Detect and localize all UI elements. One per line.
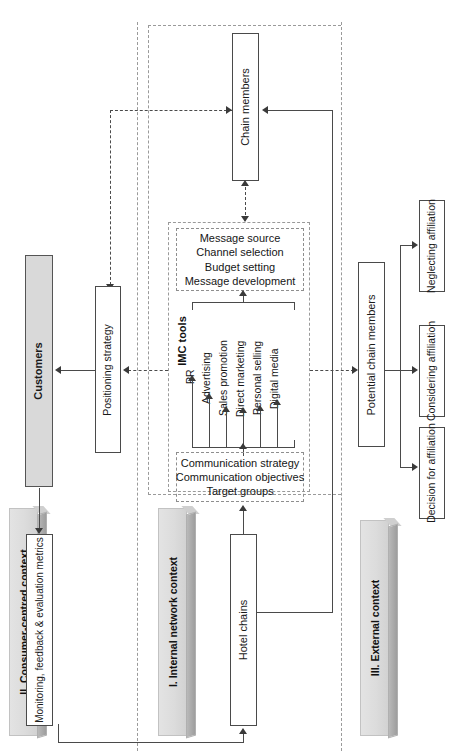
node-decision-for-affiliation-label: Decision for affiliation — [426, 423, 437, 523]
line-hotelchains-to-chainmembers-v — [332, 110, 333, 613]
arrowhead-tool-personal-selling — [256, 405, 264, 411]
line-potential-fanout — [400, 245, 401, 467]
message-line-3: Budget setting — [185, 260, 296, 274]
diagram-canvas: II. Consumer-centred context I. Internal… — [0, 0, 455, 751]
context-slab-internal: I. Internal network context — [158, 508, 187, 736]
panel-message: Message source Channel selection Budget … — [176, 228, 304, 291]
line-hotelchains-to-strategy — [243, 510, 244, 534]
arrowhead-considering — [412, 366, 418, 374]
line-monitoring-to-hotelchains-h — [58, 742, 243, 743]
node-considering-affiliation-label: Considering affiliation — [426, 321, 437, 421]
node-positioning-strategy[interactable]: Positioning strategy — [95, 286, 121, 453]
line-potential-stem — [385, 370, 401, 371]
context-divider-right — [341, 22, 342, 751]
arrowhead-chain-members-right — [262, 106, 268, 114]
arrowhead-chainmembers-bottom — [241, 180, 249, 186]
line-customers-to-monitoring — [39, 488, 40, 530]
line-hotelchains-riser — [252, 612, 333, 613]
node-neglecting-affiliation-label: Neglecting affiliation — [426, 199, 437, 293]
line-positioning-to-customers — [60, 370, 95, 371]
imc-tool-label-sales-promotion: Sales promotion — [217, 340, 229, 416]
arrowhead-tool-sales-promotion — [222, 406, 230, 412]
node-chain-members-label: Chain members — [240, 68, 252, 146]
context-label-external: III. External context — [369, 580, 381, 676]
arrowhead-to-messagepanel — [239, 290, 247, 296]
node-potential-chain-members-label: Potential chain members — [366, 294, 378, 415]
node-decision-for-affiliation[interactable]: Decision for affiliation — [419, 427, 445, 519]
context-divider-left — [137, 22, 138, 751]
imc-tool-label-direct-marketing: Direct marketing — [234, 341, 246, 417]
imc-tool-label-personal-selling: Personal selling — [251, 341, 263, 415]
arrowhead-neglecting — [412, 241, 418, 249]
node-positioning-strategy-label: Positioning strategy — [102, 324, 113, 416]
node-hotel-chains[interactable]: Hotel chains — [230, 534, 257, 726]
arrowhead-positioning-right — [123, 366, 129, 374]
link-chainmembers-messagepanel — [245, 182, 246, 220]
arrowhead-tool-advertising — [205, 393, 213, 399]
arrowhead-tool-pr — [188, 375, 196, 381]
node-customers-label: Customers — [33, 342, 45, 399]
link-imc-to-positioning — [128, 370, 168, 371]
node-considering-affiliation[interactable]: Considering affiliation — [419, 325, 445, 417]
node-hotel-chains-label: Hotel chains — [238, 600, 250, 661]
feedback-line-down-to-positioning — [110, 110, 111, 285]
arrowhead-decision — [412, 463, 418, 471]
slab-side — [186, 511, 196, 738]
strategy-line-1: Communication strategy — [176, 456, 304, 470]
strategy-line-3: Target groups — [176, 484, 304, 498]
message-line-1: Message source — [185, 231, 296, 245]
node-customers[interactable]: Customers — [25, 255, 53, 487]
node-chain-members[interactable]: Chain members — [232, 33, 259, 181]
arrowhead-potential-left — [352, 366, 358, 374]
arrowhead-hotelchains-bottom — [239, 728, 247, 734]
message-line-2: Channel selection — [185, 245, 296, 259]
node-monitoring-label: Monitoring, feedback & evaluation metric… — [34, 537, 45, 723]
node-potential-chain-members[interactable]: Potential chain members — [358, 262, 385, 447]
arrowhead-tool-digital-media — [273, 399, 281, 405]
context-label-internal: I. Internal network context — [167, 557, 179, 687]
link-imc-to-potential — [310, 370, 354, 371]
context-slab-external: III. External context — [360, 520, 389, 736]
panel-strategy: Communication strategy Communication obj… — [176, 452, 304, 502]
strategy-line-2: Communication objectives — [176, 470, 304, 484]
line-hotelchains-to-chainmembers-h — [265, 110, 333, 111]
arrowhead-strategy-to-bracket — [239, 443, 247, 449]
message-line-4: Message development — [185, 274, 296, 288]
node-neglecting-affiliation[interactable]: Neglecting affiliation — [419, 200, 445, 292]
feedback-line-chain-to-positioning — [110, 110, 232, 111]
imc-tools-upper-bracket — [192, 302, 295, 310]
arrowhead-strategy-bottom — [239, 505, 247, 511]
line-tool-pr — [192, 380, 193, 447]
arrowhead-customers-right — [55, 366, 61, 374]
node-monitoring[interactable]: Monitoring, feedback & evaluation metric… — [26, 534, 53, 726]
imc-tools-label: IMC tools — [176, 311, 188, 371]
line-monitoring-down — [58, 724, 59, 743]
line-into-hotelchains-bottom — [243, 733, 244, 743]
arrowhead-tool-direct-marketing — [239, 407, 247, 413]
slab-side — [388, 523, 398, 738]
